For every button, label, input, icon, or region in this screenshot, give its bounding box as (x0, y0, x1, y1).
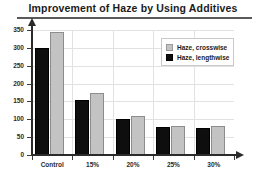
x-axis-tick (32, 156, 33, 160)
y-axis-label: 50 (0, 133, 24, 140)
legend-label-crosswise: Haze, crosswise (177, 44, 227, 51)
y-axis-tick (27, 119, 32, 120)
legend-swatch-lengthwise-icon (166, 54, 173, 61)
y-axis-label: 100 (0, 115, 24, 122)
title-divider (17, 17, 252, 19)
bar (50, 32, 64, 155)
bar (75, 100, 89, 155)
x-axis-label: 20% (111, 161, 155, 168)
y-axis-label: 350 (0, 26, 24, 33)
y-axis-tick (27, 48, 32, 49)
y-axis-tick (27, 66, 32, 67)
x-axis-label: 30% (192, 161, 236, 168)
y-axis-tick (27, 84, 32, 85)
legend-label-lengthwise: Haze, lengthwise (177, 54, 229, 61)
bar (90, 93, 104, 156)
gridline (153, 30, 154, 155)
x-axis-tick (153, 156, 154, 160)
bar (35, 48, 49, 155)
bar (116, 119, 130, 155)
legend: Haze, crosswise Haze, lengthwise (161, 38, 234, 66)
x-axis-tick (194, 156, 195, 160)
bar (196, 128, 210, 156)
x-axis-label: 15% (71, 161, 115, 168)
y-axis-label: 150 (0, 97, 24, 104)
x-axis-tick (234, 156, 235, 160)
x-axis-tick (113, 156, 114, 160)
y-axis-label: 0 (0, 151, 24, 158)
gridline (113, 30, 114, 155)
x-axis-arrow-icon (236, 151, 244, 159)
x-axis-label: 25% (151, 161, 195, 168)
x-axis-tick (72, 156, 73, 160)
legend-item-crosswise: Haze, crosswise (166, 42, 229, 52)
y-axis-label: 200 (0, 80, 24, 87)
bar (156, 127, 170, 155)
bar (211, 126, 225, 155)
x-axis-label: Control (30, 161, 74, 168)
legend-swatch-crosswise-icon (166, 44, 173, 51)
haze-improvement-bar-chart: Improvement of Haze by Using Additives H… (0, 0, 266, 181)
bar (171, 126, 185, 155)
y-axis-tick (27, 30, 32, 31)
gridline (72, 30, 73, 155)
x-axis-line (31, 154, 237, 156)
y-axis-label: 300 (0, 44, 24, 51)
y-axis-tick (27, 137, 32, 138)
y-axis-tick (27, 101, 32, 102)
legend-item-lengthwise: Haze, lengthwise (166, 52, 229, 62)
y-axis-label: 250 (0, 62, 24, 69)
y-axis-arrow-icon (28, 18, 36, 26)
chart-title: Improvement of Haze by Using Additives (0, 2, 266, 14)
bar (131, 116, 145, 155)
